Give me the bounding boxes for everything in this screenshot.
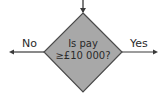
decision-line-1: Is pay <box>43 38 123 50</box>
no-branch-label: No <box>22 38 37 50</box>
decision-question: Is pay ≥£10 000? <box>43 38 123 62</box>
no-branch-arrow <box>9 50 44 55</box>
decision-line-2: ≥£10 000? <box>43 50 123 62</box>
yes-branch-label: Yes <box>130 38 148 50</box>
yes-branch-arrow <box>122 50 158 55</box>
incoming-arrow <box>80 0 86 13</box>
